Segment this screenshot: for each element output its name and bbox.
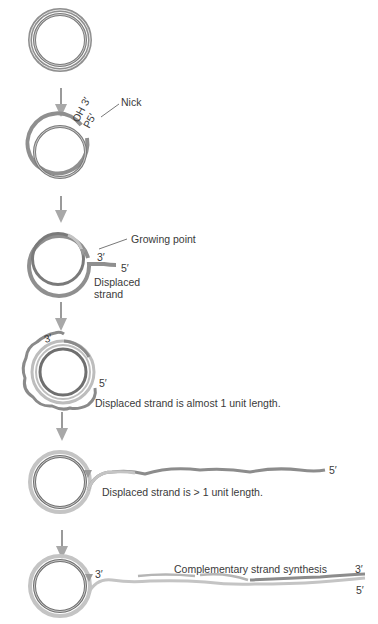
rolling-circle-diagram [0, 0, 378, 624]
circle-step-1 [30, 10, 90, 70]
growing-point-label: Growing point [131, 233, 196, 245]
arrow-4 [56, 412, 68, 441]
caption-step-4: Displaced strand is almost 1 unit length… [95, 397, 281, 409]
nick-leader-line [101, 104, 119, 117]
caption-step-6: Complementary strand synthesis [174, 563, 327, 575]
displaced-label-line2: strand [94, 288, 123, 300]
five-prime-label-5: 5′ [329, 464, 337, 476]
five-prime-label-6-right: 5′ [356, 584, 364, 596]
three-prime-label-3: 3′ [97, 251, 105, 263]
arrow-2 [55, 196, 67, 223]
displaced-label-line1: Displaced [94, 276, 140, 288]
five-prime-label-4: 5′ [99, 377, 107, 389]
caption-step-5: Displaced strand is > 1 unit length. [102, 486, 263, 498]
three-prime-label-6-right: 3′ [355, 563, 363, 575]
arrow-3 [55, 302, 67, 331]
nick-label: Nick [121, 96, 141, 108]
five-prime-label-3: 5′ [121, 262, 129, 274]
circle-step-4 [23, 332, 95, 409]
circle-step-5 [30, 452, 325, 512]
growing-point-leader-line [99, 239, 127, 249]
three-prime-label-6-left: 3′ [95, 568, 103, 580]
